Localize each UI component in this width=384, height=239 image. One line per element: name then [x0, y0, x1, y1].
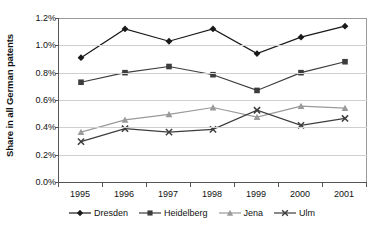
legend-swatch-square-icon [139, 208, 161, 218]
x-tick-mark [58, 182, 59, 187]
y-axis-tick-labels: 0.0%0.2%0.4%0.6%0.8%1.0%1.2% [18, 0, 56, 190]
series-heidelberg [78, 59, 348, 93]
y-tick-mark [55, 18, 59, 19]
x-tick-label: 1995 [57, 189, 103, 199]
y-tick-mark [55, 127, 59, 128]
chart-legend: DresdenHeidelbergJenaUlm [0, 208, 384, 218]
y-tick-label: 1.2% [20, 13, 56, 23]
data-point-square-marker [166, 64, 172, 70]
y-tick-label: 0.6% [20, 95, 56, 105]
data-point-square-marker [78, 79, 84, 85]
data-point-square-marker [254, 88, 260, 94]
legend-swatch-x-icon [274, 208, 296, 218]
gridline [59, 127, 367, 128]
series-ulm [78, 107, 348, 145]
legend-item-dresden[interactable]: Dresden [69, 208, 128, 218]
gridline [59, 155, 367, 156]
x-tick-mark [234, 182, 235, 187]
data-point-diamond-marker [78, 54, 85, 61]
data-point-diamond-marker [254, 50, 261, 57]
x-tick-label: 1997 [145, 189, 191, 199]
gridline [59, 100, 367, 101]
legend-label: Jena [244, 208, 264, 218]
x-tick-mark [322, 182, 323, 187]
x-tick-mark [278, 182, 279, 187]
x-tick-mark [102, 182, 103, 187]
legend-label: Dresden [94, 208, 128, 218]
x-tick-mark [190, 182, 191, 187]
legend-swatch-triangle-icon [219, 208, 241, 218]
series-dresden [78, 23, 349, 61]
data-point-x-marker [254, 107, 260, 113]
y-axis-title-label: Share in all German patents [4, 34, 15, 157]
chart-container: Share in all German patents 0.0%0.2%0.4%… [0, 0, 384, 239]
x-tick-label: 2001 [321, 189, 367, 199]
data-point-diamond-marker [166, 38, 173, 45]
y-tick-mark [55, 45, 59, 46]
legend-item-ulm[interactable]: Ulm [274, 208, 315, 218]
data-point-square-marker [147, 210, 152, 215]
gridline [59, 73, 367, 74]
data-point-diamond-marker [77, 210, 83, 216]
x-tick-mark [366, 182, 367, 187]
y-tick-mark [55, 73, 59, 74]
data-point-diamond-marker [122, 26, 129, 33]
legend-label: Ulm [299, 208, 315, 218]
legend-item-jena[interactable]: Jena [219, 208, 264, 218]
y-tick-label: 0.0% [20, 177, 56, 187]
gridline [59, 45, 367, 46]
x-tick-mark [146, 182, 147, 187]
data-point-diamond-marker [210, 26, 217, 33]
y-tick-label: 1.0% [20, 40, 56, 50]
x-tick-label: 1998 [189, 189, 235, 199]
data-point-x-marker [78, 139, 84, 145]
data-point-triangle-marker [210, 104, 217, 110]
plot-area [58, 18, 367, 182]
series-line [81, 110, 345, 141]
y-tick-label: 0.2% [20, 150, 56, 160]
data-point-diamond-marker [342, 23, 349, 30]
y-axis-title: Share in all German patents [0, 0, 18, 190]
y-tick-mark [55, 155, 59, 156]
legend-swatch-diamond-icon [69, 208, 91, 218]
legend-item-heidelberg[interactable]: Heidelberg [139, 208, 208, 218]
y-tick-label: 0.4% [20, 122, 56, 132]
data-point-square-marker [342, 59, 348, 65]
data-point-diamond-marker [298, 34, 305, 41]
legend-label: Heidelberg [164, 208, 208, 218]
x-tick-label: 2000 [277, 189, 323, 199]
x-tick-label: 1999 [233, 189, 279, 199]
x-axis-line [58, 182, 366, 183]
y-tick-label: 0.8% [20, 68, 56, 78]
x-tick-label: 1996 [101, 189, 147, 199]
y-tick-mark [55, 100, 59, 101]
